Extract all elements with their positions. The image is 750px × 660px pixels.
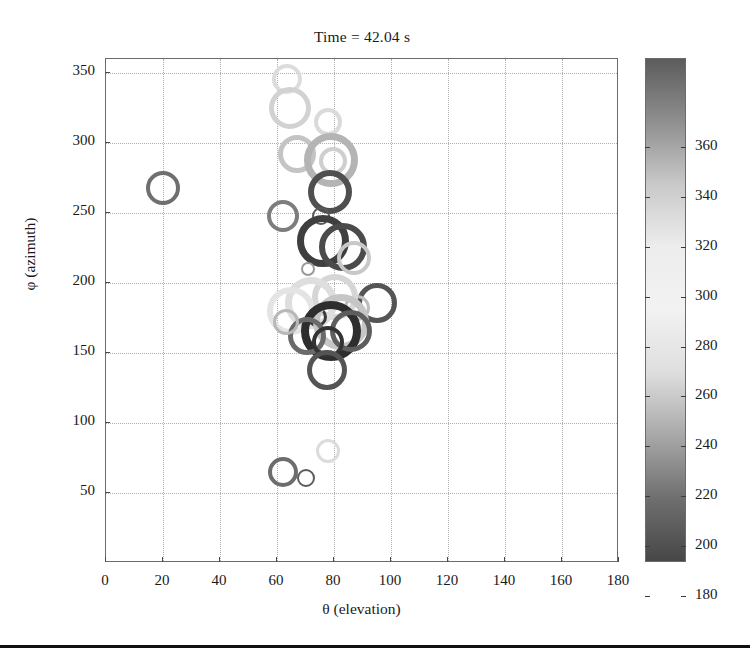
plot-title: Time = 42.04 s: [105, 28, 619, 46]
colorbar-tick-label: 200: [695, 536, 718, 553]
x-tick-mark: [162, 557, 163, 562]
colorbar-tick-mark: [681, 297, 686, 298]
scatter-marker: [308, 170, 352, 214]
colorbar-tick-mark: [645, 347, 650, 348]
scatter-marker: [337, 241, 371, 275]
x-tick-mark: [390, 557, 391, 562]
scatter-marker: [268, 457, 298, 487]
scatter-marker: [301, 262, 315, 276]
y-tick-mark: [105, 72, 110, 73]
colorbar-tick-label: 240: [695, 436, 718, 453]
colorbar-tick-mark: [681, 247, 686, 248]
colorbar-tick-mark: [681, 546, 686, 547]
colorbar-tick-mark: [681, 446, 686, 447]
y-tick-mark: [105, 142, 110, 143]
scatter-marker: [269, 87, 311, 129]
colorbar-tick-label: 220: [695, 486, 718, 503]
colorbar-tick-label: 180: [695, 586, 718, 603]
colorbar-tick-mark: [681, 197, 686, 198]
y-tick-label: 150: [39, 342, 95, 359]
x-tick-label: 140: [474, 572, 534, 589]
colorbar-tick-mark: [681, 147, 686, 148]
colorbar-tick-mark: [681, 496, 686, 497]
x-tick-label: 80: [303, 572, 363, 589]
x-tick-label: 40: [189, 572, 249, 589]
x-tick-mark: [333, 557, 334, 562]
colorbar-tick-label: 280: [695, 337, 718, 354]
x-tick-mark: [276, 557, 277, 562]
y-tick-mark: [105, 352, 110, 353]
scatter-markers: [106, 59, 617, 561]
scatter-marker: [267, 200, 299, 232]
y-tick-mark: [105, 282, 110, 283]
colorbar-tick-mark: [645, 147, 650, 148]
y-tick-label: 200: [39, 272, 95, 289]
x-tick-label: 0: [75, 572, 135, 589]
y-axis-label: φ (azimuth): [21, 164, 39, 344]
colorbar-tick-mark: [645, 297, 650, 298]
scatter-marker: [273, 309, 299, 335]
scatter-marker: [297, 469, 315, 487]
x-tick-label: 180: [588, 572, 648, 589]
colorbar-tick-mark: [645, 546, 650, 547]
colorbar-tick-mark: [681, 396, 686, 397]
colorbar-tick-label: 340: [695, 187, 718, 204]
x-tick-mark: [504, 557, 505, 562]
figure-canvas: Time = 42.04 s 0204060801001201401601805…: [0, 0, 750, 660]
scatter-marker: [307, 350, 347, 390]
y-tick-label: 350: [39, 62, 95, 79]
x-tick-label: 60: [246, 572, 306, 589]
y-tick-label: 300: [39, 132, 95, 149]
x-tick-mark: [447, 557, 448, 562]
colorbar-tick-mark: [645, 247, 650, 248]
colorbar-tick-mark: [645, 446, 650, 447]
colorbar-tick-label: 320: [695, 237, 718, 254]
scatter-marker: [146, 171, 180, 205]
colorbar-tick-label: 260: [695, 386, 718, 403]
plot-area: [105, 58, 618, 562]
y-tick-mark: [105, 492, 110, 493]
x-tick-label: 160: [531, 572, 591, 589]
x-tick-label: 20: [132, 572, 192, 589]
colorbar-tick-label: 300: [695, 287, 718, 304]
x-axis-label: θ (elevation): [105, 600, 618, 618]
y-tick-label: 50: [39, 482, 95, 499]
scatter-marker: [314, 108, 342, 136]
footer-rule: [0, 645, 750, 648]
colorbar: 180200220240260280300320340360: [645, 58, 686, 562]
y-tick-label: 100: [39, 412, 95, 429]
y-tick-mark: [105, 422, 110, 423]
x-tick-label: 120: [417, 572, 477, 589]
colorbar-tick-label: 360: [695, 137, 718, 154]
x-tick-mark: [219, 557, 220, 562]
colorbar-tick-mark: [645, 396, 650, 397]
scatter-marker: [316, 439, 340, 463]
colorbar-tick-mark: [645, 596, 650, 597]
y-tick-label: 250: [39, 202, 95, 219]
x-tick-mark: [618, 557, 619, 562]
colorbar-tick-mark: [645, 496, 650, 497]
x-tick-mark: [105, 557, 106, 562]
y-tick-mark: [105, 212, 110, 213]
x-tick-mark: [561, 557, 562, 562]
colorbar-tick-mark: [681, 347, 686, 348]
x-tick-label: 100: [360, 572, 420, 589]
colorbar-tick-mark: [681, 596, 686, 597]
colorbar-tick-mark: [645, 197, 650, 198]
